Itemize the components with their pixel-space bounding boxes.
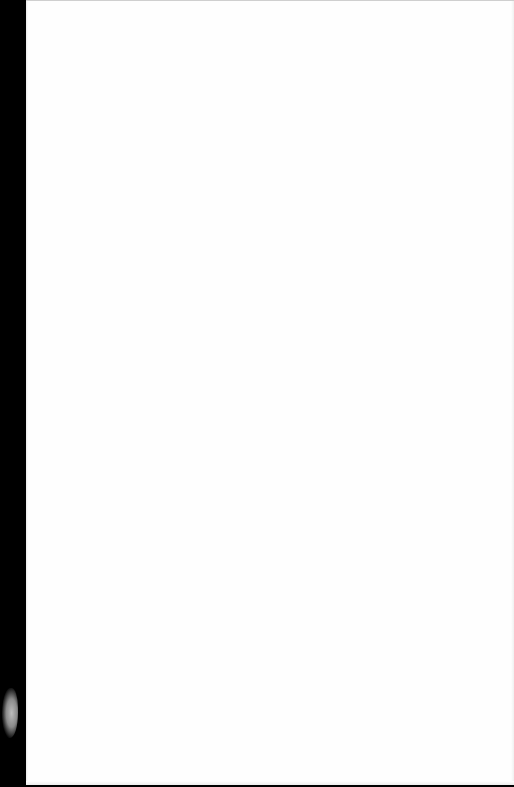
scanned-document	[0, 0, 514, 787]
page-bottom-edge	[26, 781, 514, 785]
scan-smudge	[2, 688, 18, 738]
page-left-edge	[26, 1, 28, 785]
blank-page	[26, 0, 514, 785]
